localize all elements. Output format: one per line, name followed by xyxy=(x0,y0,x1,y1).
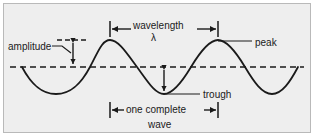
peak-label: peak xyxy=(255,38,277,48)
wave-diagram-figure: amplitude wavelength λ peak trough one c… xyxy=(0,0,314,137)
wave-label: wave xyxy=(148,120,171,130)
amplitude-label: amplitude xyxy=(8,42,51,52)
trough-label: trough xyxy=(203,90,231,100)
one-complete-label: one complete xyxy=(126,105,186,115)
lambda-symbol-label: λ xyxy=(151,33,156,43)
amplitude-leader-line xyxy=(52,46,71,53)
wavelength-label: wavelength xyxy=(133,21,184,31)
